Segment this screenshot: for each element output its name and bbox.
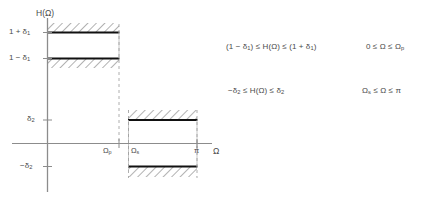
annotation-passband-range: 0 ≤ Ω ≤ Ωp: [366, 43, 404, 52]
stopband-lower-hatch-region: [128, 167, 197, 177]
passband-upper-hatch-region: [48, 23, 119, 32]
filter-tolerance-scheme-figure: H(Ω) Ω 1 + δ1 1 − δ1 δ2 −δ2 Ωp Ωs π (1 −…: [0, 0, 432, 202]
annotation-passband-condition: (1 − δ1) ≤ H(Ω) ≤ (1 + δ1): [226, 43, 317, 52]
x-tick-label-pi: π: [194, 147, 199, 155]
vertical-axis-label: H(Ω): [36, 8, 54, 18]
x-tick-label-omega-p: Ωp: [103, 147, 112, 156]
stopband-upper-hatch-region: [128, 110, 197, 120]
annotation-stopband-range: Ωs ≤ Ω ≤ π: [362, 87, 401, 96]
y-tick-label-1-minus-delta1: 1 − δ1: [9, 54, 30, 63]
annotation-stopband-condition: −δ2 ≤ H(Ω) ≤ δ2: [228, 87, 284, 96]
y-tick-label-minus-delta2: −δ2: [20, 162, 32, 171]
horizontal-axis-label: Ω: [213, 146, 219, 156]
tolerance-scheme-plot: [0, 0, 432, 202]
y-tick-label-delta2: δ2: [27, 115, 35, 124]
y-tick-label-1-plus-delta1: 1 + δ1: [9, 28, 30, 37]
x-tick-label-omega-s: Ωs: [131, 147, 139, 156]
passband-lower-hatch-region: [48, 59, 119, 68]
